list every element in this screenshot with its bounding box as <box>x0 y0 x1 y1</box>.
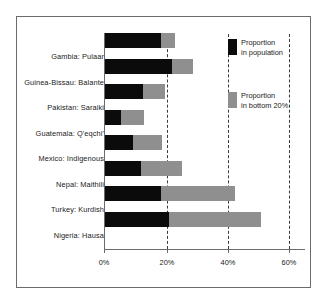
plot-area: Gambia: Pulaar Guinea-Bissau: Balante Pa… <box>17 17 312 289</box>
table-row <box>104 186 304 201</box>
category-label-pakistan: Pakistan: Saraiki <box>0 103 104 112</box>
bar-black-guinea-bissau <box>104 59 172 74</box>
bar-black-gambia <box>104 33 161 48</box>
bar-black-mexico <box>104 135 133 150</box>
category-label-guatemala: Guatemala: Q'eqchi' <box>0 129 104 138</box>
bar-black-nepal <box>104 161 141 176</box>
tick-mark-40 <box>228 249 229 253</box>
tick-mark-0 <box>104 249 105 253</box>
bar-black-turkey <box>104 186 161 201</box>
legend-label-population: Proportion in population <box>241 38 283 57</box>
category-label-nigeria: Nigeria: Hausa <box>0 231 104 240</box>
bar-black-pakistan <box>104 84 143 99</box>
bar-black-guatemala <box>104 110 121 125</box>
bar-black-nigeria <box>104 212 169 227</box>
table-row <box>104 59 304 74</box>
table-row <box>104 135 304 150</box>
legend-swatch-bottom20 <box>228 92 237 108</box>
category-label-turkey: Turkey: Kurdish <box>0 205 104 214</box>
tick-label-60: 60% <box>269 258 309 267</box>
legend-label-bottom20: Proportion in bottom 20% <box>241 91 288 110</box>
table-row <box>104 212 304 227</box>
legend-label-bottom20-line1: Proportion <box>241 91 288 101</box>
x-axis-line <box>104 249 305 250</box>
category-label-guinea-bissau: Guinea-Bissau: Balante <box>0 78 104 87</box>
table-row <box>104 161 304 176</box>
table-row <box>104 110 304 125</box>
legend-label-population-line1: Proportion <box>241 38 283 48</box>
tick-mark-60 <box>289 249 290 253</box>
y-axis-line <box>104 33 105 249</box>
legend-label-bottom20-line2: in bottom 20% <box>241 101 288 111</box>
category-label-gambia: Gambia: Pulaar <box>0 52 104 61</box>
category-label-mexico: Mexico: Indigenous <box>0 154 104 163</box>
tick-label-20: 20% <box>147 258 187 267</box>
tick-label-40: 40% <box>208 258 248 267</box>
chart-frame: Gambia: Pulaar Guinea-Bissau: Balante Pa… <box>16 16 311 288</box>
category-label-nepal: Nepal: Maithili <box>0 180 104 189</box>
legend-swatch-population <box>228 39 237 55</box>
tick-mark-20 <box>167 249 168 253</box>
tick-label-0: 0% <box>84 258 124 267</box>
legend-label-population-line2: in population <box>241 48 283 58</box>
